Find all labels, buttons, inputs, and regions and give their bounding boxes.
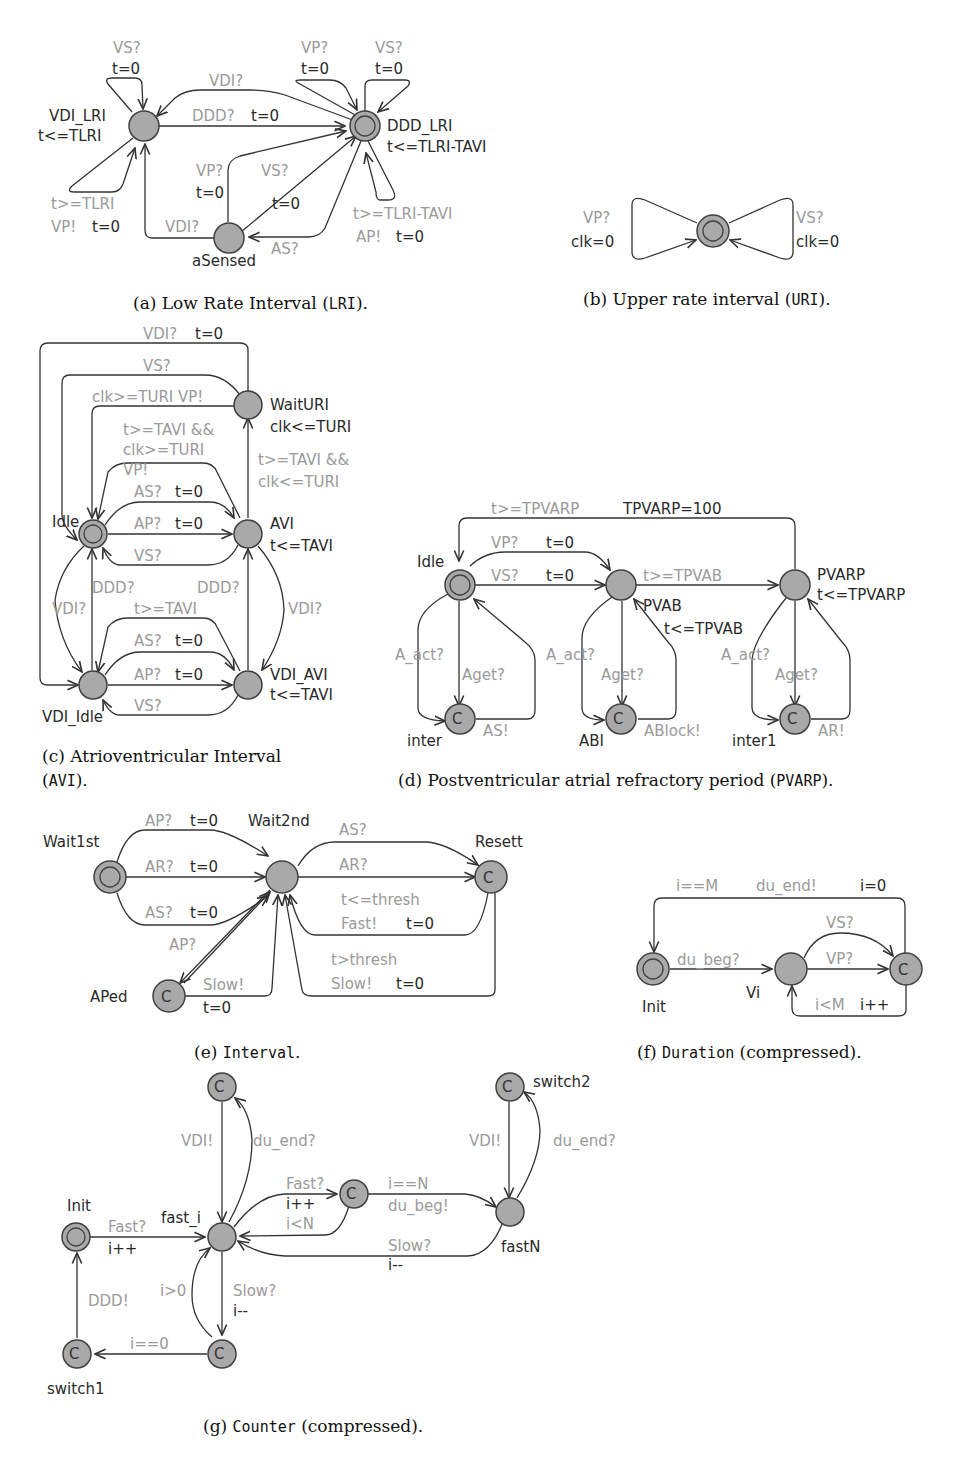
svg-text:t=0: t=0 xyxy=(190,858,218,876)
svg-text:clk>=TURI VP!: clk>=TURI VP! xyxy=(92,388,203,406)
svg-text:clk<=TURI: clk<=TURI xyxy=(270,418,351,436)
svg-text:t=0: t=0 xyxy=(546,567,574,585)
svg-text:clk>=TURI: clk>=TURI xyxy=(123,441,204,459)
svg-text:du_end?: du_end? xyxy=(553,1132,616,1151)
svg-text:VS?: VS? xyxy=(134,547,162,565)
caption-f: (f) Duration (compressed). xyxy=(637,1042,862,1062)
svg-text:AVI: AVI xyxy=(270,515,294,533)
svg-text:i==M: i==M xyxy=(676,877,718,895)
svg-text:VDI!: VDI! xyxy=(181,1132,213,1150)
svg-text:C: C xyxy=(214,1345,224,1363)
svg-text:Slow?: Slow? xyxy=(233,1282,276,1300)
svg-text:Aget?: Aget? xyxy=(775,666,818,684)
svg-text:TPVARP=100: TPVARP=100 xyxy=(622,500,721,518)
svg-text:Slow!: Slow! xyxy=(331,975,372,993)
caption-a: (a) Low Rate Interval (LRI). xyxy=(133,293,368,313)
caption-c: (c) Atrioventricular Interval xyxy=(42,746,281,766)
svg-text:t=0: t=0 xyxy=(175,515,203,533)
svg-text:VP?: VP? xyxy=(583,209,610,227)
svg-text:i<N: i<N xyxy=(286,1215,314,1233)
svg-text:t>=TAVI: t>=TAVI xyxy=(134,600,197,618)
svg-text:du_beg?: du_beg? xyxy=(677,951,740,970)
svg-text:t=0: t=0 xyxy=(406,915,434,933)
svg-text:PVARP: PVARP xyxy=(817,566,865,584)
svg-text:t>=TLRI-TAVI: t>=TLRI-TAVI xyxy=(353,205,452,223)
svg-text:Wait2nd: Wait2nd xyxy=(248,812,310,830)
svg-text:AS?: AS? xyxy=(134,632,162,650)
svg-text:t>thresh: t>thresh xyxy=(331,951,397,969)
svg-text:C: C xyxy=(898,961,908,979)
location-fast-i xyxy=(208,1223,236,1251)
location-vi xyxy=(775,953,807,985)
diagram-duration: C i==M du_end! i=0 VS? du_beg? VP? Vi In… xyxy=(637,877,922,1062)
svg-text:C: C xyxy=(346,1185,356,1203)
diagram-counter: C C C C C VDI! du_end? Fast? i++ i<N Ini… xyxy=(47,1073,616,1436)
svg-text:t=0: t=0 xyxy=(375,60,403,78)
svg-text:AP!: AP! xyxy=(356,228,381,246)
svg-text:t=0: t=0 xyxy=(546,534,574,552)
svg-text:VDI?: VDI? xyxy=(143,325,177,343)
svg-text:VS?: VS? xyxy=(491,567,519,585)
svg-text:AP?: AP? xyxy=(169,936,196,954)
svg-text:WaitURI: WaitURI xyxy=(270,396,329,414)
svg-text:t=0: t=0 xyxy=(190,904,218,922)
svg-text:VDI!: VDI! xyxy=(469,1132,501,1150)
svg-text:VS?: VS? xyxy=(134,697,162,715)
svg-text:VP?: VP? xyxy=(196,162,223,180)
svg-text:t>=TPVAB: t>=TPVAB xyxy=(643,567,722,585)
svg-text:VP!: VP! xyxy=(51,218,76,236)
svg-text:VDI?: VDI? xyxy=(288,600,322,618)
svg-text:VS?: VS? xyxy=(113,39,141,57)
svg-text:C: C xyxy=(214,1078,224,1096)
svg-text:DDD?: DDD? xyxy=(197,579,240,597)
svg-text:t=0: t=0 xyxy=(396,228,424,246)
svg-text:Resett: Resett xyxy=(475,833,523,851)
svg-text:Wait1st: Wait1st xyxy=(43,833,99,851)
svg-text:Slow!: Slow! xyxy=(203,976,244,994)
location-pvarp xyxy=(780,570,810,600)
svg-text:VP!: VP! xyxy=(123,461,148,479)
svg-text:i++: i++ xyxy=(860,996,889,1014)
svg-text:VDI?: VDI? xyxy=(165,218,199,236)
svg-text:VP?: VP? xyxy=(826,950,853,968)
svg-text:fast_i: fast_i xyxy=(161,1209,201,1228)
diagram-pvarp: C C C t>=TPVARP TPVARP=100 Idle VP? t=0 … xyxy=(395,500,905,790)
svg-text:du_end?: du_end? xyxy=(253,1132,316,1151)
svg-text:AP?: AP? xyxy=(145,812,172,830)
svg-text:Idle: Idle xyxy=(417,553,444,571)
svg-text:AS?: AS? xyxy=(145,904,173,922)
svg-text:i++: i++ xyxy=(108,1240,137,1258)
svg-text:AR!: AR! xyxy=(818,722,845,740)
svg-text:i=0: i=0 xyxy=(860,877,886,895)
svg-text:Aget?: Aget? xyxy=(601,666,644,684)
svg-text:AP?: AP? xyxy=(134,666,161,684)
svg-text:Fast?: Fast? xyxy=(286,1175,324,1193)
svg-text:t<=TPVAB: t<=TPVAB xyxy=(664,620,743,638)
svg-text:clk=0: clk=0 xyxy=(571,233,614,251)
caption-e: (e) Interval. xyxy=(194,1042,300,1062)
svg-text:t=0: t=0 xyxy=(203,999,231,1017)
svg-text:clk<=TURI: clk<=TURI xyxy=(258,473,339,491)
location-pvab xyxy=(606,570,636,600)
caption-g: (g) Counter (compressed). xyxy=(203,1416,423,1436)
svg-text:i--: i-- xyxy=(388,1256,403,1274)
caption-b: (b) Upper rate interval (URI). xyxy=(583,289,831,309)
caption-c-2: (AVI). xyxy=(42,770,88,790)
svg-text:VDI_AVI: VDI_AVI xyxy=(270,666,328,685)
svg-text:VS?: VS? xyxy=(375,39,403,57)
svg-text:t=0: t=0 xyxy=(196,184,224,202)
svg-text:t=0: t=0 xyxy=(112,60,140,78)
svg-text:t<=thresh: t<=thresh xyxy=(341,891,420,909)
caption-d: (d) Postventricular atrial refractory pe… xyxy=(398,770,834,790)
svg-text:switch1: switch1 xyxy=(47,1380,104,1398)
svg-text:t<=TPVARP: t<=TPVARP xyxy=(817,586,905,604)
svg-text:i>0: i>0 xyxy=(160,1282,186,1300)
location-fastn xyxy=(496,1198,524,1226)
svg-text:du_end!: du_end! xyxy=(756,877,817,896)
svg-text:DDD?: DDD? xyxy=(192,107,235,125)
svg-text:t=0: t=0 xyxy=(175,483,203,501)
svg-text:ABI: ABI xyxy=(579,732,604,750)
location-init-initial xyxy=(637,953,669,985)
svg-text:Vi: Vi xyxy=(746,984,760,1002)
svg-text:i<M: i<M xyxy=(815,996,845,1014)
